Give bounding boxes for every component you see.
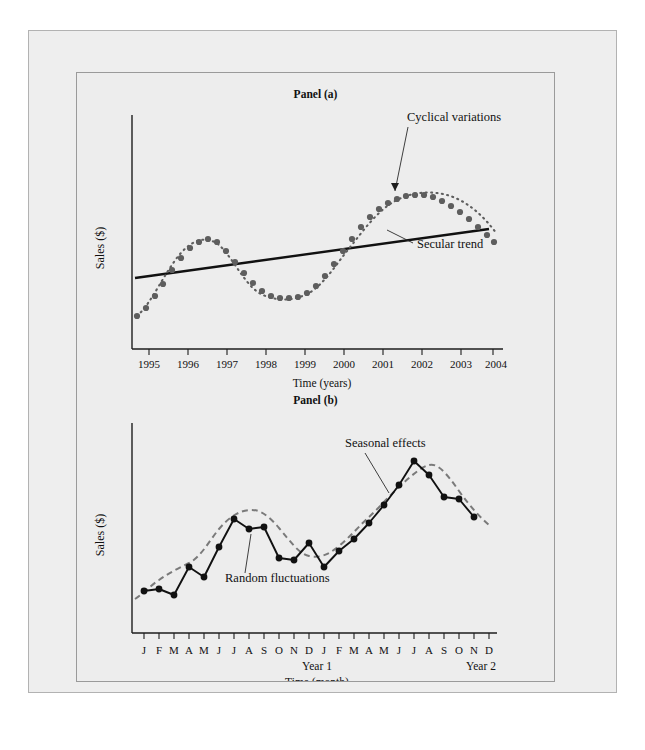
month-label: J (412, 644, 417, 656)
panel-a-tick-1997: 1997 (216, 358, 239, 370)
month-label: M (169, 644, 179, 656)
charts-svg: Sales ($) 1995 1996 1997 1998 199 (77, 73, 554, 681)
month-label: F (156, 644, 162, 656)
month-label: J (397, 644, 402, 656)
month-label: F (336, 644, 342, 656)
panel-b-month-labels: J F M A M J J A S O N D J F M A M J J A (142, 644, 493, 656)
panel-a-cyclical-annotation: Cyclical variations (391, 110, 501, 191)
panel-a-secular-annotation-text: Secular trend (417, 237, 484, 251)
month-label: A (185, 644, 193, 656)
month-label: S (441, 644, 447, 656)
month-label: D (485, 644, 493, 656)
month-label: M (199, 644, 209, 656)
panel-a-x-ticks (149, 349, 493, 355)
month-label: A (245, 644, 253, 656)
panel-a-tick-2001: 2001 (372, 358, 394, 370)
panel-a-tick-1999: 1999 (294, 358, 317, 370)
panel-a-tick-2002: 2002 (411, 358, 433, 370)
month-label: N (470, 644, 478, 656)
month-label: D (305, 644, 313, 656)
panel-b-x-axis-label: Time (month) (285, 676, 349, 681)
panel-a-cyclical-annotation-text: Cyclical variations (407, 110, 501, 124)
panel-a-x-tick-labels: 1995 1996 1997 1998 1999 2000 2001 2002 … (138, 358, 508, 370)
panel-a-cyclical-arrowhead (391, 183, 399, 191)
panel-a-tick-1995: 1995 (138, 358, 161, 370)
month-label: O (455, 644, 463, 656)
panel-b-seasonal-annotation: Seasonal effects (345, 436, 426, 493)
panel-a-tick-2003: 2003 (450, 358, 473, 370)
panel-a-cyclical-points (134, 192, 497, 319)
panel-b-x-ticks (144, 633, 489, 639)
month-label: N (290, 644, 298, 656)
panel-a-tick-2000: 2000 (333, 358, 356, 370)
month-label: A (425, 644, 433, 656)
panel-b-year-1-label: Year 1 (302, 660, 332, 672)
panel-b-year-2-label: Year 2 (466, 660, 496, 672)
panel-a-tick-1996: 1996 (177, 358, 200, 370)
month-label: M (349, 644, 359, 656)
month-label: J (232, 644, 237, 656)
panel-b-random-annotation-text: Random fluctuations (225, 571, 330, 585)
month-label: J (217, 644, 222, 656)
panel-b-y-axis-label: Sales ($) (93, 514, 107, 556)
panel-a-chart: Sales ($) 1995 1996 1997 1998 199 (93, 110, 508, 390)
month-label: S (261, 644, 267, 656)
month-label: A (365, 644, 373, 656)
panel-a-x-axis-label: Time (years) (293, 377, 352, 390)
month-label: O (275, 644, 283, 656)
panel-a-tick-1998: 1998 (255, 358, 278, 370)
month-label: J (322, 644, 327, 656)
figure-plot-box: Panel (a) Panel (b) Sales ($) (76, 72, 555, 682)
month-label: J (142, 644, 147, 656)
month-label: M (379, 644, 389, 656)
panel-b-seasonal-annotation-text: Seasonal effects (345, 436, 426, 450)
panel-b-chart: Sales ($) (93, 423, 497, 681)
panel-a-y-axis-label: Sales ($) (93, 227, 107, 269)
panel-a-tick-2004: 2004 (485, 358, 508, 370)
panel-a-cyclical-curve (137, 192, 497, 316)
